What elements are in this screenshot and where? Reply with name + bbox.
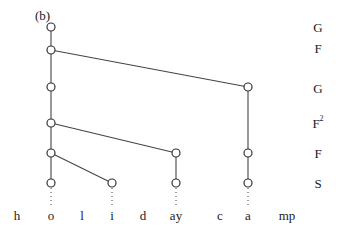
tree-edge xyxy=(51,153,112,183)
tier-label: F xyxy=(314,147,321,160)
tree-node xyxy=(47,23,55,31)
tree-node xyxy=(47,46,55,54)
tree-node xyxy=(244,83,252,91)
tree-graphic xyxy=(0,0,348,228)
tree-node xyxy=(244,179,252,187)
tier-label: G xyxy=(313,82,322,95)
tree-edge xyxy=(51,123,176,153)
segment-letter: c xyxy=(217,209,223,222)
segment-letter: h xyxy=(14,209,21,222)
tree-node xyxy=(47,119,55,127)
tree-node xyxy=(47,83,55,91)
tier-label: S xyxy=(314,177,321,190)
segment-letter: ay xyxy=(170,209,182,222)
tier-label: F2 xyxy=(312,117,323,130)
tree-node xyxy=(244,149,252,157)
tier-label: G xyxy=(313,21,322,34)
segment-letter: l xyxy=(80,209,84,222)
tier-label: F xyxy=(314,42,321,55)
segment-letter: mp xyxy=(279,209,296,222)
segment-letter: o xyxy=(48,209,55,222)
tree-node xyxy=(108,179,116,187)
segment-letter: i xyxy=(110,209,114,222)
tree-edge xyxy=(51,50,248,87)
tree-node xyxy=(47,179,55,187)
segment-letter: a xyxy=(245,209,251,222)
tree-node xyxy=(47,149,55,157)
tree-node xyxy=(172,179,180,187)
segment-letter: d xyxy=(140,209,147,222)
tree-node xyxy=(172,149,180,157)
